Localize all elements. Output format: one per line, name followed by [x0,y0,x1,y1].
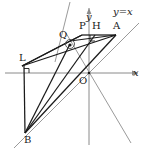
segment-L-P [22,35,82,66]
x-axis-label: x [133,68,139,78]
dot-intersection [68,43,71,46]
line-y-equals-x-label: y=x [113,7,133,17]
dot-origin [88,72,91,75]
main-segments [22,35,116,133]
point-label-P: P [79,21,86,31]
figure-canvas [0,0,147,153]
point-label-B: B [24,135,31,145]
line-descending-right [66,33,131,143]
line-y-equals-x [14,23,139,148]
point-label-H: H [92,21,101,31]
point-label-L: L [19,53,26,63]
right-angle-at-L [24,69,29,74]
point-label-A: A [113,21,120,31]
geometry-figure: y x O y=x A H P Q L B [0,0,147,153]
origin-label: O [79,76,87,86]
point-label-Q: Q [59,30,67,40]
auxiliary-lines [14,2,139,148]
segment-L-B [24,66,25,133]
y-axis-label: y [86,12,92,22]
